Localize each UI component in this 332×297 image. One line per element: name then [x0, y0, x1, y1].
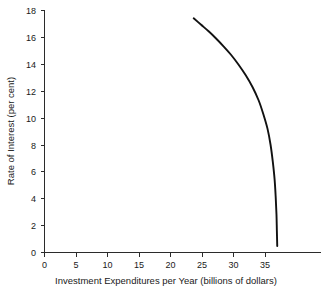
- y-axis-ticks: [41, 11, 45, 253]
- y-tick-label-18: 18: [26, 6, 36, 16]
- y-tick-label-16: 16: [26, 33, 36, 43]
- y-tick-label-0: 0: [31, 248, 36, 258]
- y-tick-label-14: 14: [26, 60, 36, 70]
- y-axis-tick-labels: 18 16 14 12 10 8 6 4 2 0: [26, 6, 36, 258]
- figure-caption: [0, 289, 332, 297]
- x-tick-label-15: 15: [134, 260, 144, 270]
- x-tick-label-10: 10: [102, 260, 112, 270]
- investment-demand-curve: [194, 18, 278, 246]
- investment-demand-chart-figure: 18 16 14 12 10 8 6 4 2 0 0 5 10 15: [0, 0, 332, 297]
- y-tick-label-10: 10: [26, 114, 36, 124]
- x-axis-title: Investment Expenditures per Year (billio…: [55, 275, 277, 286]
- x-tick-label-35: 35: [260, 260, 270, 270]
- y-axis-title: Rate of Interest (per cent): [5, 77, 16, 185]
- y-tick-label-8: 8: [31, 141, 36, 151]
- x-tick-label-25: 25: [197, 260, 207, 270]
- x-tick-label-20: 20: [165, 260, 175, 270]
- x-axis-ticks: [45, 253, 266, 257]
- x-axis-tick-labels: 0 5 10 15 20 25 30 35: [42, 260, 270, 270]
- y-tick-label-4: 4: [31, 194, 36, 204]
- y-tick-label-12: 12: [26, 87, 36, 97]
- chart-plot-area: 18 16 14 12 10 8 6 4 2 0 0 5 10 15: [0, 0, 332, 297]
- x-tick-label-5: 5: [73, 260, 78, 270]
- x-tick-label-0: 0: [42, 260, 47, 270]
- y-tick-label-2: 2: [31, 221, 36, 231]
- axis-lines: [45, 11, 321, 253]
- x-tick-label-30: 30: [228, 260, 238, 270]
- y-tick-label-6: 6: [31, 167, 36, 177]
